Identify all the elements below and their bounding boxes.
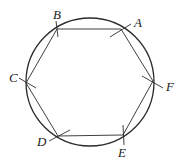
hexagon xyxy=(26,29,153,136)
hexagon-diagram: A F E D C B xyxy=(0,0,183,161)
label-c: C xyxy=(9,70,18,85)
arc-mark-e xyxy=(123,125,124,145)
label-e: E xyxy=(117,145,126,160)
label-a: A xyxy=(133,15,142,30)
label-d: D xyxy=(36,134,47,149)
label-b: B xyxy=(53,7,61,22)
label-f: F xyxy=(165,79,175,94)
arc-mark-f xyxy=(142,76,163,88)
circumscribed-circle xyxy=(26,18,154,146)
